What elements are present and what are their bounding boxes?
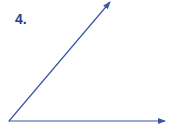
- vertex-point: [8, 120, 9, 121]
- angle-diagram: [0, 0, 175, 140]
- diagonal-ray: [9, 2, 110, 121]
